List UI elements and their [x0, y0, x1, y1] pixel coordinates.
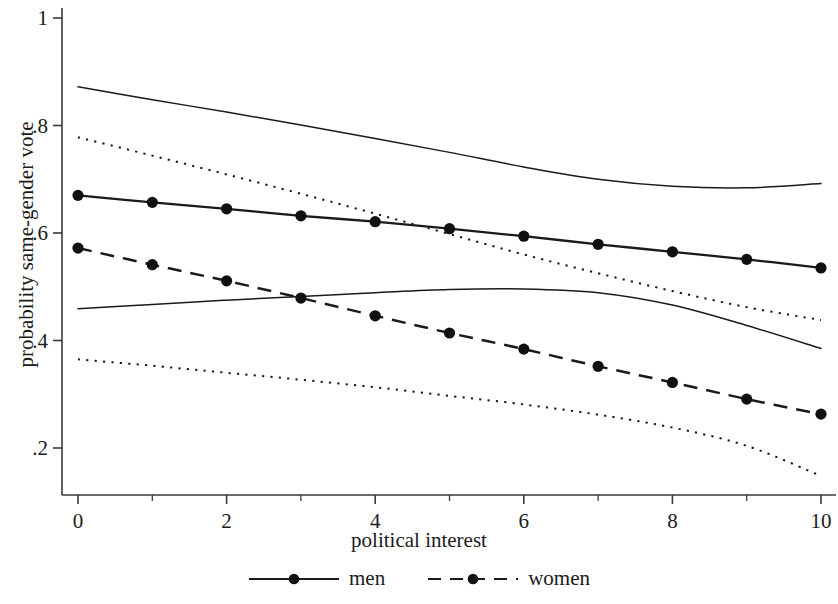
- legend-label-men: men: [349, 566, 385, 591]
- series-paths: [78, 87, 821, 476]
- series-marker: [444, 223, 455, 234]
- x-axis-title: political interest: [0, 528, 838, 553]
- series-marker: [741, 393, 752, 404]
- series-marker: [815, 409, 826, 420]
- legend-key-dashed-line-with-dot: [427, 572, 519, 586]
- series-marker: [221, 275, 232, 286]
- axis-lines: [62, 8, 836, 495]
- plot-area: [0, 0, 838, 604]
- series-line: [78, 359, 821, 476]
- series-marker: [518, 231, 529, 242]
- legend-entry-women: women: [427, 566, 590, 591]
- series-marker: [518, 344, 529, 355]
- series-marker: [72, 242, 83, 253]
- y-axis-tick-label: 1: [8, 8, 48, 29]
- series-marker: [147, 197, 158, 208]
- series-markers: [72, 190, 826, 420]
- series-marker: [147, 259, 158, 270]
- legend-key-solid-line-with-dot: [248, 572, 340, 586]
- legend-label-women: women: [528, 566, 590, 591]
- series-marker: [295, 210, 306, 221]
- series-marker: [370, 310, 381, 321]
- series-marker: [444, 327, 455, 338]
- series-marker: [593, 361, 604, 372]
- series-marker: [667, 377, 678, 388]
- series-marker: [370, 216, 381, 227]
- series-marker: [815, 262, 826, 273]
- legend-entry-men: men: [248, 566, 385, 591]
- series-marker: [72, 190, 83, 201]
- series-marker: [667, 246, 678, 257]
- y-axis-tick-label: .2: [8, 438, 48, 459]
- chart-legend: men women: [0, 566, 838, 591]
- series-marker: [741, 254, 752, 265]
- series-marker: [221, 203, 232, 214]
- chart-figure: .2.4.6.81 0246810 political interest pro…: [0, 0, 838, 604]
- series-line: [78, 87, 821, 188]
- axis-ticks: [53, 18, 821, 504]
- series-line: [78, 289, 821, 349]
- series-marker: [593, 239, 604, 250]
- series-marker: [295, 292, 306, 303]
- y-axis-title: probability same-gender vote: [14, 85, 39, 405]
